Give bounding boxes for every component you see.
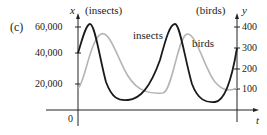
right-axis-arrow-icon	[235, 13, 239, 19]
t-axis-arrow-icon	[253, 108, 259, 112]
origin-label: 0	[68, 114, 73, 124]
left-axis-var: x	[70, 5, 75, 16]
left-tick-label-20000: 20,000	[35, 79, 63, 89]
right-axis-var: y	[242, 5, 247, 16]
right-tick-label-300: 300	[242, 43, 257, 53]
t-axis-label: t	[256, 115, 259, 126]
right-tick-label-100: 100	[242, 84, 257, 94]
right-tick-label-200: 200	[242, 64, 257, 74]
left-axis-arrow-icon	[76, 13, 80, 19]
right-tick-label-400: 400	[242, 22, 257, 32]
left-tick-label-40000: 40,000	[35, 48, 63, 58]
right-axis-unit: (birds)	[196, 5, 225, 16]
left-tick-label-60000: 60,000	[35, 22, 63, 32]
insects-annotation: insects	[133, 30, 163, 41]
left-axis-unit: (insects)	[85, 5, 122, 16]
panel-label: (c)	[10, 21, 23, 33]
birds-annotation: birds	[192, 38, 214, 49]
